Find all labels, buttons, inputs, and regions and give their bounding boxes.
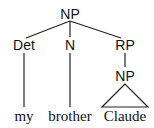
word-brother: brother	[48, 108, 91, 124]
syntax-tree: NP Det N RP NP my brother Claude	[0, 0, 154, 128]
edge-np-rp	[70, 21, 121, 38]
node-root-np: NP	[60, 6, 79, 22]
word-claude: Claude	[104, 108, 147, 124]
node-n: N	[65, 37, 75, 53]
node-rp: RP	[115, 37, 134, 53]
node-np-sub: NP	[115, 68, 134, 84]
node-det: Det	[13, 37, 35, 53]
word-my: my	[14, 108, 34, 124]
edge-np-det	[26, 21, 70, 38]
triangle-np-claude	[102, 84, 148, 107]
